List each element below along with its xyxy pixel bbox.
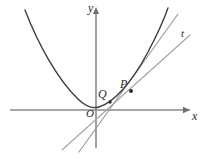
point-label-P: P bbox=[120, 78, 127, 90]
point-label-Q: Q bbox=[98, 88, 107, 100]
y-axis-label: y bbox=[88, 2, 93, 14]
point-marker-Q bbox=[108, 100, 111, 103]
point-marker-P bbox=[129, 89, 133, 93]
tangent-line-label: t bbox=[181, 28, 184, 39]
figure-canvas bbox=[0, 0, 205, 160]
x-axis-label: x bbox=[192, 110, 197, 122]
origin-label: O bbox=[86, 108, 94, 119]
x-axis-arrowhead bbox=[183, 107, 190, 113]
math-figure: y x O Q P t bbox=[0, 0, 205, 160]
y-axis-arrowhead bbox=[93, 7, 99, 14]
secant-line-QP bbox=[62, 35, 190, 150]
